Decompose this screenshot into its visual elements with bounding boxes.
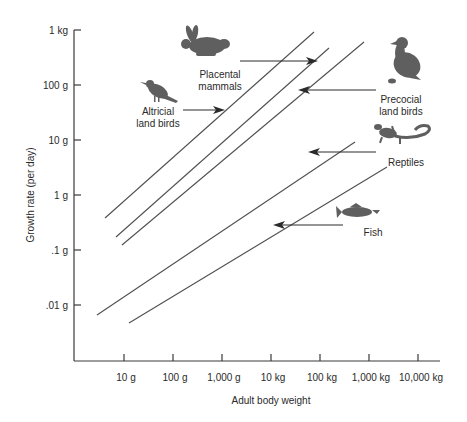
- rabbit-icon: [181, 25, 230, 56]
- x-tick-label: 10 g: [116, 372, 135, 383]
- x-tick-label: 1,000 kg: [352, 372, 390, 383]
- y-tick-label: 1 kg: [49, 25, 68, 36]
- songbird-icon: [140, 80, 178, 103]
- x-tick-label: 10 kg: [261, 372, 285, 383]
- arrow-reptiles: [308, 148, 376, 156]
- x-tick-label: 1,000 g: [207, 372, 240, 383]
- x-axis-title: Adult body weight: [232, 395, 311, 406]
- y-tick-label: 10 g: [49, 135, 68, 146]
- label-placental-line1: Placental: [199, 69, 240, 80]
- growth-rate-chart: 1 kg 100 g 10 g 1 g .1 g .01 g Growth ra…: [0, 0, 467, 422]
- line-precocial-land-birds: [122, 42, 364, 245]
- x-tick-label: 100 kg: [307, 372, 337, 383]
- y-axis-title: Growth rate (per day): [25, 147, 36, 242]
- duck-icon: [388, 37, 425, 84]
- x-tick-label: 100 g: [162, 372, 187, 383]
- x-tick-label: 10,000 kg: [399, 372, 443, 383]
- y-tick-label: 1 g: [54, 190, 68, 201]
- label-precocial-line1: Precocial: [380, 94, 421, 105]
- label-fish: Fish: [364, 227, 383, 238]
- label-precocial-line2: land birds: [379, 106, 422, 117]
- arrow-fish: [273, 221, 343, 229]
- label-reptiles: Reptiles: [388, 157, 424, 168]
- y-tick-label: 100 g: [43, 80, 68, 91]
- y-tick-label: .1 g: [51, 245, 68, 256]
- fish-icon: [336, 203, 380, 218]
- label-placental-line2: mammals: [198, 81, 241, 92]
- arrow-altricial: [183, 106, 225, 114]
- label-altricial-line1: Altricial: [142, 106, 174, 117]
- y-axis: 1 kg 100 g 10 g 1 g .1 g .01 g Growth ra…: [25, 25, 81, 361]
- lizard-icon: [374, 124, 429, 144]
- line-reptiles: [97, 142, 355, 315]
- x-axis: 10 g 100 g 1,000 g 10 kg 100 kg 1,000 kg…: [74, 354, 443, 406]
- label-altricial-line2: land birds: [136, 118, 179, 129]
- y-tick-label: .01 g: [46, 300, 68, 311]
